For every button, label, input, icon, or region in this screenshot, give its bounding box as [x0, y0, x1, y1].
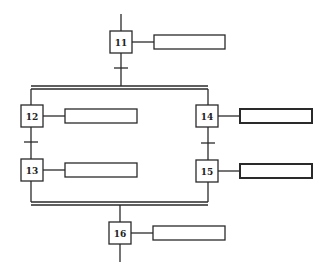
action-box-11 [154, 35, 225, 49]
step-15: 15 [196, 160, 218, 182]
action-box-12 [65, 109, 137, 123]
svg-text:15: 15 [201, 167, 214, 177]
svg-text:14: 14 [201, 112, 214, 122]
svg-text:11: 11 [115, 38, 128, 48]
step-14: 14 [196, 105, 218, 127]
action-box-15 [240, 164, 312, 178]
step-16: 16 [109, 222, 131, 244]
svg-text:12: 12 [26, 112, 39, 122]
svg-text:13: 13 [26, 166, 39, 176]
grafcet-diagram: 11 12 13 14 15 16 [0, 0, 323, 273]
svg-text:16: 16 [114, 229, 127, 239]
action-box-14 [240, 109, 312, 123]
step-11: 11 [110, 31, 132, 53]
action-box-16 [153, 226, 225, 240]
step-12: 12 [21, 105, 43, 127]
step-13: 13 [21, 159, 43, 181]
action-box-13 [65, 163, 137, 177]
